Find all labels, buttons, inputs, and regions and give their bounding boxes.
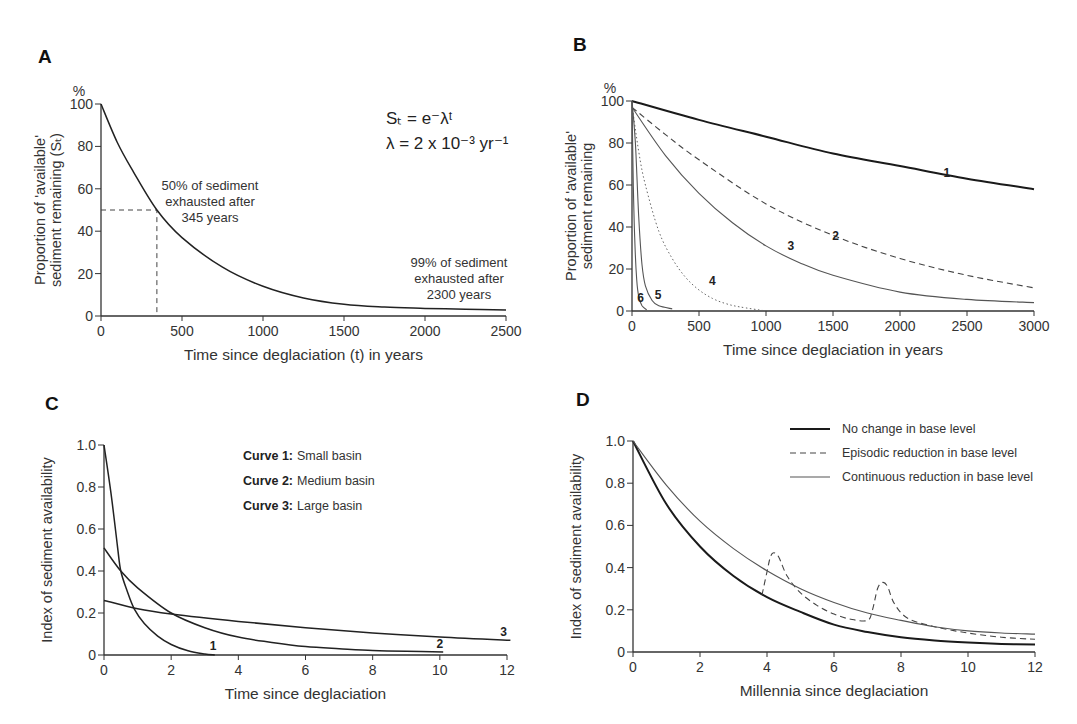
legend-key: Curve 3: — [243, 499, 293, 513]
legend-value: Small basin — [297, 449, 362, 463]
y-axis-label: sediment remaining — [579, 143, 595, 270]
series-line-4 — [632, 105, 766, 311]
y-tick-label: 0.4 — [77, 563, 97, 579]
x-tick-label: 0 — [628, 318, 636, 334]
x-tick-label: 1000 — [750, 318, 781, 334]
x-tick-label: 0 — [629, 659, 637, 675]
x-tick-label: 2000 — [409, 323, 440, 339]
y-unit: % — [73, 83, 85, 99]
y-axis-label: Index of sediment availability — [39, 457, 55, 643]
x-tick-label: 12 — [499, 662, 515, 678]
y-axis-label: sediment remaining (Sₜ) — [48, 133, 64, 287]
x-tick-label: 0 — [100, 662, 108, 678]
series-line-3 — [104, 600, 510, 640]
panel-b-letter: B — [573, 34, 587, 55]
y-tick-label: 40 — [608, 219, 624, 235]
legend-key: Curve 1: — [243, 449, 293, 463]
legend-label: Episodic reduction in base level — [842, 446, 1017, 460]
x-tick-label: 2 — [696, 659, 704, 675]
curve-label: 3 — [787, 239, 794, 253]
y-unit: % — [604, 80, 616, 96]
x-tick-label: 1500 — [328, 323, 359, 339]
series-line-1 — [104, 445, 215, 655]
annotation-99pct: 2300 years — [427, 287, 492, 302]
curve-label: 5 — [655, 288, 662, 302]
panel-a-letter: A — [38, 46, 52, 67]
x-axis-label: Time since deglaciation in years — [723, 341, 943, 358]
y-tick-label: 0.6 — [606, 517, 626, 533]
y-tick-label: 80 — [608, 135, 624, 151]
x-tick-label: 10 — [960, 659, 976, 675]
x-tick-label: 500 — [687, 318, 711, 334]
x-axis-label: Time since deglaciation (t) in years — [184, 346, 423, 363]
y-tick-label: 0 — [617, 644, 625, 660]
annotation-50pct: 345 years — [181, 210, 239, 225]
y-axis-label: Index of sediment availability — [568, 453, 584, 639]
legend-value: Large basin — [297, 499, 362, 513]
x-tick-label: 6 — [302, 662, 310, 678]
curve-label: 2 — [436, 637, 443, 651]
x-axis-label: Time since deglaciation — [225, 685, 386, 702]
x-axis-label: Millennia since deglaciation — [740, 682, 929, 699]
x-tick-label: 2000 — [884, 318, 915, 334]
y-tick-label: 0 — [85, 308, 93, 324]
curve-label: 4 — [709, 274, 716, 288]
x-tick-label: 3000 — [1018, 318, 1049, 334]
half-life-guide — [101, 210, 157, 316]
panel-a: A 05001000150020002500020406080100%Time … — [32, 46, 522, 363]
x-tick-label: 4 — [763, 659, 771, 675]
y-tick-label: 40 — [77, 223, 93, 239]
curve-label: 2 — [832, 229, 839, 243]
formula-line-2: λ = 2 x 10⁻³ yr⁻¹ — [386, 134, 509, 153]
curve-label: 1 — [210, 639, 217, 653]
x-tick-label: 6 — [830, 659, 838, 675]
x-tick-label: 1000 — [247, 323, 278, 339]
y-axis-label: Proportion of 'available' — [563, 131, 579, 281]
y-axis-label: Proportion of 'available' — [32, 135, 48, 285]
x-tick-label: 10 — [432, 662, 448, 678]
annotation-99pct: exhausted after — [414, 271, 504, 286]
x-tick-label: 2500 — [951, 318, 982, 334]
x-tick-label: 2 — [167, 662, 175, 678]
legend-value: Medium basin — [297, 474, 375, 488]
panel-b: B 050010001500200025003000020406080100%T… — [563, 34, 1050, 358]
series-line-episodic-reduction-in-base-level — [762, 553, 1035, 640]
panel-c: C 02468101200.20.40.60.81.0Time since de… — [39, 393, 515, 702]
curve-label: 1 — [944, 166, 951, 180]
y-tick-label: 60 — [77, 181, 93, 197]
y-tick-label: 0.2 — [77, 605, 97, 621]
y-tick-label: 20 — [608, 261, 624, 277]
legend-label: No change in base level — [842, 422, 975, 436]
x-tick-label: 4 — [234, 662, 242, 678]
annotation-99pct: 99% of sediment — [411, 255, 508, 270]
figure: A 05001000150020002500020406080100%Time … — [0, 0, 1077, 724]
y-tick-label: 0 — [616, 303, 624, 319]
y-tick-label: 1.0 — [606, 433, 626, 449]
x-tick-label: 12 — [1027, 659, 1043, 675]
x-tick-label: 8 — [897, 659, 905, 675]
x-tick-label: 8 — [369, 662, 377, 678]
y-tick-label: 1.0 — [77, 437, 97, 453]
legend-key: Curve 2: — [243, 474, 293, 488]
x-tick-label: 0 — [97, 323, 105, 339]
curve-label: 6 — [637, 291, 644, 305]
y-tick-label: 0.4 — [606, 560, 626, 576]
y-tick-label: 0 — [88, 647, 96, 663]
y-tick-label: 60 — [608, 177, 624, 193]
y-tick-label: 20 — [77, 266, 93, 282]
legend-label: Continuous reduction in base level — [842, 470, 1033, 484]
series-line-2 — [104, 548, 443, 652]
x-tick-label: 1500 — [817, 318, 848, 334]
y-tick-label: 0.8 — [606, 475, 626, 491]
panel-d: D 02468101200.20.40.60.81.0Millennia sin… — [568, 389, 1043, 699]
y-tick-label: 80 — [77, 138, 93, 154]
panel-d-letter: D — [576, 389, 590, 410]
panel-c-letter: C — [45, 393, 59, 414]
y-tick-label: 0.6 — [77, 521, 97, 537]
annotation-50pct: 50% of sediment — [162, 178, 259, 193]
series-line-5 — [632, 101, 672, 309]
y-tick-label: 0.2 — [606, 602, 626, 618]
series-line-1 — [632, 101, 1034, 189]
curve-label: 3 — [500, 625, 507, 639]
formula-line-1: Sₜ = e⁻λᵗ — [386, 109, 453, 128]
